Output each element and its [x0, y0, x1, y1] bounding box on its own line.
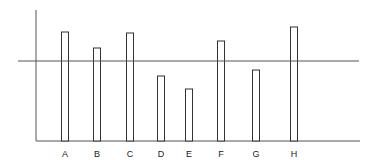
x-tick-label: G	[246, 149, 266, 159]
x-tick-label: A	[55, 149, 75, 159]
bar-f	[218, 41, 225, 141]
x-tick-label: C	[120, 149, 140, 159]
bar-h	[291, 27, 298, 141]
bars	[62, 27, 298, 141]
bar-d	[158, 76, 165, 141]
bar-a	[62, 32, 69, 141]
bar-c	[127, 33, 134, 141]
bar-g	[253, 70, 260, 141]
x-tick-label: H	[284, 149, 304, 159]
x-tick-label: B	[87, 149, 107, 159]
x-tick-label: D	[151, 149, 171, 159]
bar-chart	[0, 0, 367, 167]
x-tick-label: F	[211, 149, 231, 159]
bar-e	[186, 89, 193, 141]
x-tick-label: E	[179, 149, 199, 159]
bar-b	[94, 48, 101, 141]
